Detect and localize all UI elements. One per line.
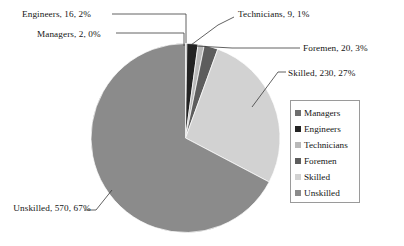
legend-item-foremen[interactable]: Foremen <box>295 153 359 169</box>
legend-item-label: Foremen <box>304 156 337 166</box>
callout-label-engineers: Engineers, 16, 2% <box>22 9 91 21</box>
legend-swatch-icon <box>295 158 301 164</box>
legend-item-technicians[interactable]: Technicians <box>295 137 359 153</box>
legend-item-managers[interactable]: Managers <box>295 105 359 121</box>
legend-item-label: Unskilled <box>304 188 340 198</box>
legend-swatch-icon <box>295 110 301 116</box>
callout-label-managers: Managers, 2, 0% <box>37 29 101 41</box>
legend-swatch-icon <box>295 126 301 132</box>
legend-item-skilled[interactable]: Skilled <box>295 169 359 185</box>
legend-item-label: Technicians <box>304 140 348 150</box>
legend-item-unskilled[interactable]: Unskilled <box>295 185 359 201</box>
pie-slice-group <box>91 44 280 233</box>
legend-item-label: Skilled <box>304 172 330 182</box>
legend-swatch-icon <box>295 142 301 148</box>
callout-label-foremen: Foremen, 20, 3% <box>303 43 368 55</box>
pie-chart: Engineers, 16, 2% Managers, 2, 0% Techni… <box>0 0 404 246</box>
legend-swatch-icon <box>295 190 301 196</box>
legend-swatch-icon <box>295 174 301 180</box>
callout-label-technicians: Technicians, 9, 1% <box>238 9 309 21</box>
chart-legend: ManagersEngineersTechniciansForemenSkill… <box>290 100 360 203</box>
leader-line-technicians <box>191 17 234 45</box>
leader-line-engineers <box>112 14 186 43</box>
legend-item-engineers[interactable]: Engineers <box>295 121 359 137</box>
callout-label-skilled: Skilled, 230, 27% <box>288 68 355 80</box>
legend-item-label: Engineers <box>304 124 341 134</box>
legend-item-label: Managers <box>304 108 340 118</box>
callout-label-unskilled: Unskilled, 570, 67% <box>9 203 95 215</box>
